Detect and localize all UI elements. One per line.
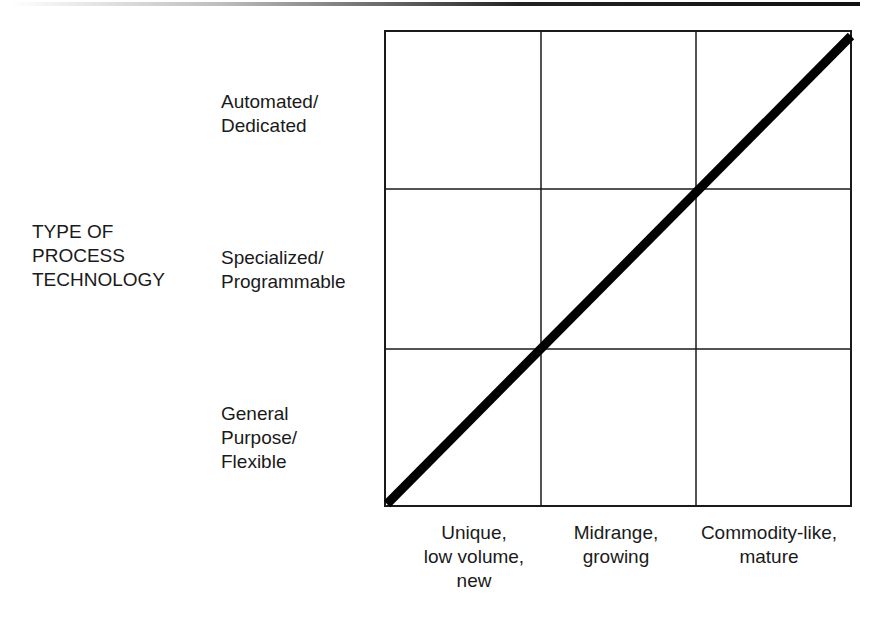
diagonal-line [387, 36, 851, 504]
row-label-automated: Automated/ Dedicated [221, 90, 318, 138]
column-label-commodity: Commodity-like, mature [684, 521, 854, 569]
row-label-specialized: Specialized/ Programmable [221, 246, 346, 294]
column-label-midrange: Midrange, growing [531, 521, 701, 569]
y-axis-title: TYPE OF PROCESS TECHNOLOGY [32, 220, 165, 292]
row-label-general-purpose: General Purpose/ Flexible [221, 402, 297, 474]
